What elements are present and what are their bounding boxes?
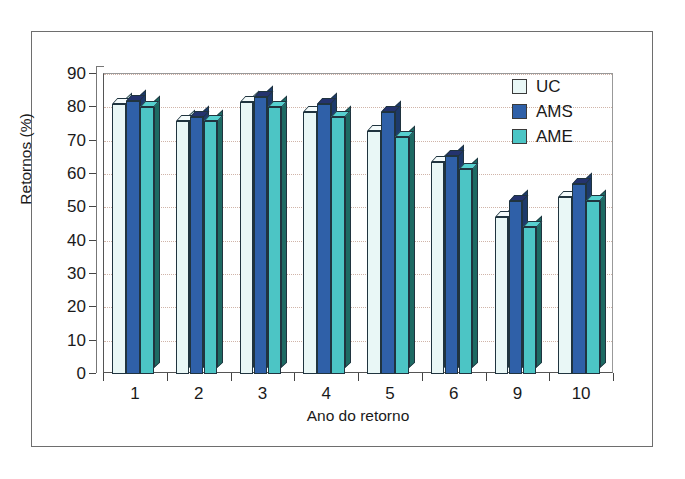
bar-ame-6 — [459, 169, 473, 374]
x-tick-label: 1 — [105, 384, 165, 404]
y-tick-label: 80 — [52, 98, 86, 115]
y-tick-mark — [89, 273, 96, 274]
bar-ams-6 — [445, 156, 459, 374]
legend-swatch-icon — [512, 79, 527, 94]
y-tick-mark — [89, 240, 96, 241]
y-tick-mark — [89, 306, 96, 307]
bar-ams-10 — [572, 184, 586, 374]
bar-side-face — [536, 216, 542, 368]
y-tick-label: 40 — [52, 231, 86, 248]
bar-ams-1 — [126, 101, 140, 374]
bar-uc-3 — [240, 102, 254, 374]
bar-side-face — [281, 96, 287, 368]
x-tick-mark — [358, 373, 359, 381]
bar-uc-6 — [431, 162, 445, 374]
bar-side-face — [409, 126, 415, 368]
bar-ame-1 — [140, 107, 154, 374]
x-tick-label: 10 — [551, 384, 611, 404]
y-tick-mark — [89, 373, 96, 374]
bar-ame-10 — [586, 201, 600, 374]
y-tick-mark — [89, 106, 96, 107]
bar-ame-5 — [395, 137, 409, 374]
x-tick-label: 6 — [424, 384, 484, 404]
y-axis-title: Retornos (%) — [17, 59, 35, 259]
y-tick-label: 20 — [52, 298, 86, 315]
x-tick-label: 9 — [487, 384, 547, 404]
x-tick-label: 2 — [169, 384, 229, 404]
chart-page: 0102030405060708090 Retornos (%) 1234569… — [0, 0, 685, 479]
x-tick-mark — [231, 373, 232, 381]
x-tick-mark — [167, 373, 168, 381]
bar-side-face — [600, 189, 606, 368]
bar-uc-10 — [558, 197, 572, 374]
legend-swatch-icon — [512, 129, 527, 144]
bar-ame-2 — [204, 121, 218, 374]
bar-uc-2 — [176, 121, 190, 374]
bar-ams-9 — [509, 201, 523, 374]
bar-uc-9 — [495, 217, 509, 374]
y-tick-label: 0 — [52, 365, 86, 382]
y-tick-mark — [89, 206, 96, 207]
x-tick-mark — [294, 373, 295, 381]
legend-label: AMS — [536, 103, 573, 120]
x-tick-mark — [422, 373, 423, 381]
bar-uc-4 — [303, 112, 317, 374]
x-tick-mark — [486, 373, 487, 381]
bar-ame-9 — [523, 227, 537, 374]
bar-ams-3 — [254, 97, 268, 374]
y-tick-mark — [89, 140, 96, 141]
x-tick-label: 4 — [296, 384, 356, 404]
bar-side-face — [472, 158, 478, 368]
legend-item-ams[interactable]: AMS — [512, 99, 612, 124]
x-tick-label: 5 — [360, 384, 420, 404]
bar-ams-2 — [190, 117, 204, 374]
bar-uc-1 — [112, 104, 126, 374]
bar-ams-5 — [381, 112, 395, 374]
y-tick-mark — [89, 173, 96, 174]
legend-item-uc[interactable]: UC — [512, 74, 612, 99]
y-tick-mark — [89, 340, 96, 341]
bar-side-face — [217, 109, 223, 368]
bar-ams-4 — [317, 104, 331, 374]
x-tick-mark — [613, 373, 614, 381]
legend-item-ame[interactable]: AME — [512, 124, 612, 149]
y-tick-mark — [89, 73, 96, 74]
x-tick-label: 3 — [232, 384, 292, 404]
bar-uc-5 — [367, 131, 381, 374]
chart-legend: UCAMSAME — [512, 74, 612, 149]
legend-label: AME — [536, 128, 573, 145]
legend-label: UC — [536, 78, 561, 95]
bar-side-face — [345, 106, 351, 368]
legend-swatch-icon — [512, 104, 527, 119]
y-tick-label: 50 — [52, 198, 86, 215]
x-axis-title: Ano do retorno — [103, 407, 613, 425]
x-tick-mark — [549, 373, 550, 381]
y-tick-label: 90 — [52, 65, 86, 82]
x-tick-mark — [103, 373, 104, 381]
bar-side-face — [154, 96, 160, 368]
bar-ame-4 — [331, 117, 345, 374]
y-tick-label: 10 — [52, 331, 86, 348]
y-tick-label: 70 — [52, 131, 86, 148]
bar-ame-3 — [268, 107, 282, 374]
y-tick-label: 60 — [52, 165, 86, 182]
y-tick-label: 30 — [52, 265, 86, 282]
